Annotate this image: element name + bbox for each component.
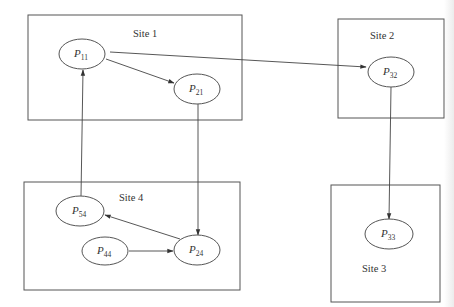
site-label: Site 4 [119,192,144,203]
site-site1: Site 1 [28,15,242,120]
node-subscript: 44 [104,250,112,259]
node-P24: P24 [174,235,220,265]
site-label: Site 1 [133,28,157,39]
site-site4: Site 4 [24,182,240,290]
site-label: Site 2 [370,30,394,41]
node-subscript: 32 [390,71,398,80]
node-P44: P44 [82,237,128,265]
site-label: Site 3 [362,263,386,274]
node-P21: P21 [174,74,220,104]
edge-P54-to-P11 [81,70,83,196]
node-subscript: 11 [81,53,88,62]
edge-P32-to-P33 [389,87,391,219]
node-subscript: 21 [196,88,204,97]
edge-P11-to-P32 [110,52,366,67]
node-subscript: 24 [196,249,204,258]
node-subscript: 33 [388,233,396,242]
wait-for-graph-diagram: Site 1Site 2Site 3Site 4 P11P21P32P33P54… [0,0,454,307]
node-P32: P32 [368,57,414,87]
edge-P11-to-P21 [106,59,174,83]
edge-P24-to-P54 [105,215,180,239]
node-P11: P11 [59,39,105,69]
edges-layer [81,52,391,251]
node-P33: P33 [365,219,413,249]
node-P54: P54 [56,196,104,226]
page-edge-shadow [444,0,454,307]
node-subscript: 54 [79,210,87,219]
nodes-layer: P11P21P32P33P54P44P24 [56,39,414,265]
